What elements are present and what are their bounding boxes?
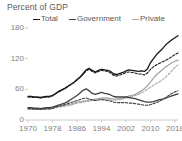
x-axis-tick-2010: 2010 [142, 125, 160, 133]
y-axis-tick-180: 180 [0, 24, 24, 32]
y-axis-tick-120: 120 [0, 55, 24, 63]
series-line-government [28, 89, 178, 109]
x-axis-tick-2002: 2002 [117, 125, 135, 133]
x-axis-tick-1970: 1970 [19, 125, 37, 133]
x-axis-tick-1978: 1978 [44, 125, 62, 133]
chart-plot-area [0, 0, 182, 141]
series-line-total [28, 36, 178, 98]
x-axis-tick-2018: 2018 [166, 125, 182, 133]
chart-series-layer [28, 36, 178, 110]
x-axis-tick-1986: 1986 [68, 125, 86, 133]
series-line-government-alt [28, 91, 178, 109]
y-axis-tick-60: 60 [0, 85, 24, 93]
x-axis-tick-1994: 1994 [93, 125, 111, 133]
y-axis-tick-0: 0 [0, 116, 24, 124]
chart-container: Percent of GDP Total Government Private … [0, 0, 182, 141]
